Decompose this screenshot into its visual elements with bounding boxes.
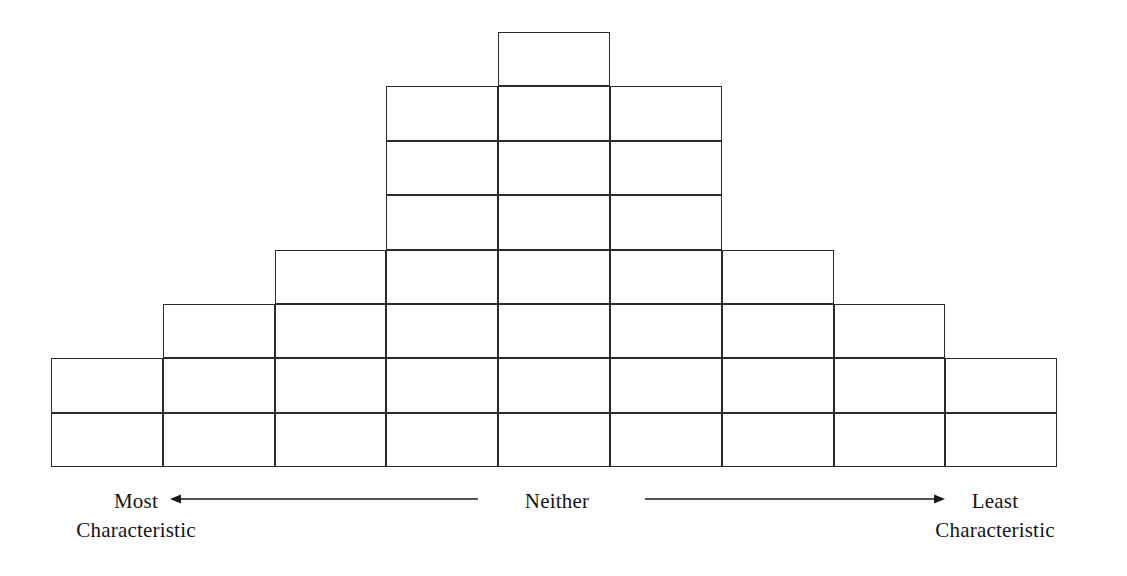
axis-labels: MostCharacteristic Neither LeastCharacte…	[0, 0, 1127, 576]
arrow-right-icon	[645, 491, 945, 507]
arrow-left-icon	[170, 491, 480, 507]
qsort-diagram: MostCharacteristic Neither LeastCharacte…	[0, 0, 1127, 576]
axis-label-neither: Neither	[487, 487, 627, 516]
axis-label-most-line1: Most	[114, 489, 158, 513]
axis-label-most-line2: Characteristic	[76, 518, 195, 542]
axis-label-least-line2: Characteristic	[935, 518, 1054, 542]
axis-label-least-line1: Least	[972, 489, 1018, 513]
